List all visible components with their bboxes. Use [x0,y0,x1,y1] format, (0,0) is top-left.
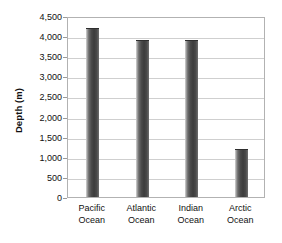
x-axis-tick-label: ArcticOcean [212,203,268,226]
x-axis-tick-label-line: Atlantic [113,203,169,215]
y-axis-title-text: Depth (m) [14,87,25,132]
x-axis-tick-label: AtlanticOcean [113,203,169,226]
y-axis-tick-label: 3,500 [28,53,62,62]
y-axis-tick-mark [63,198,67,199]
x-axis-tick-label-line: Ocean [212,215,268,227]
y-axis-tick-label: 0 [28,194,62,203]
y-axis-tick-label: 4,500 [28,13,62,22]
bar [185,40,198,197]
y-axis-tick-label: 1,500 [28,133,62,142]
y-axis-tick-labels: 05001,0001,5002,0002,5003,0003,5004,0004… [28,17,62,198]
y-axis-title: Depth (m) [12,70,26,150]
x-axis-tick-label-line: Arctic [212,203,268,215]
y-axis-tick-label: 4,000 [28,33,62,42]
bar [86,28,99,197]
x-axis-tick-labels: PacificOceanAtlanticOceanIndianOceanArct… [67,203,265,239]
bars-layer [68,18,264,197]
plot-area [67,17,265,198]
y-axis-tick-label: 500 [28,173,62,182]
x-axis-tick-label-line: Ocean [113,215,169,227]
x-axis-tick-label-line: Ocean [64,215,120,227]
y-axis-tick-label: 2,000 [28,113,62,122]
bar-chart-figure: Depth (m) 05001,0001,5002,0002,5003,0003… [0,0,282,243]
y-axis-tick-label: 1,000 [28,153,62,162]
x-axis-tick-label-line: Indian [163,203,219,215]
y-axis-tick-label: 3,000 [28,73,62,82]
bar [235,149,248,197]
x-axis-tick-label-line: Ocean [163,215,219,227]
y-axis-tick-label: 2,500 [28,93,62,102]
x-axis-tick-label-line: Pacific [64,203,120,215]
x-axis-tick-label: IndianOcean [163,203,219,226]
x-axis-tick-label: PacificOcean [64,203,120,226]
bar [136,40,149,197]
